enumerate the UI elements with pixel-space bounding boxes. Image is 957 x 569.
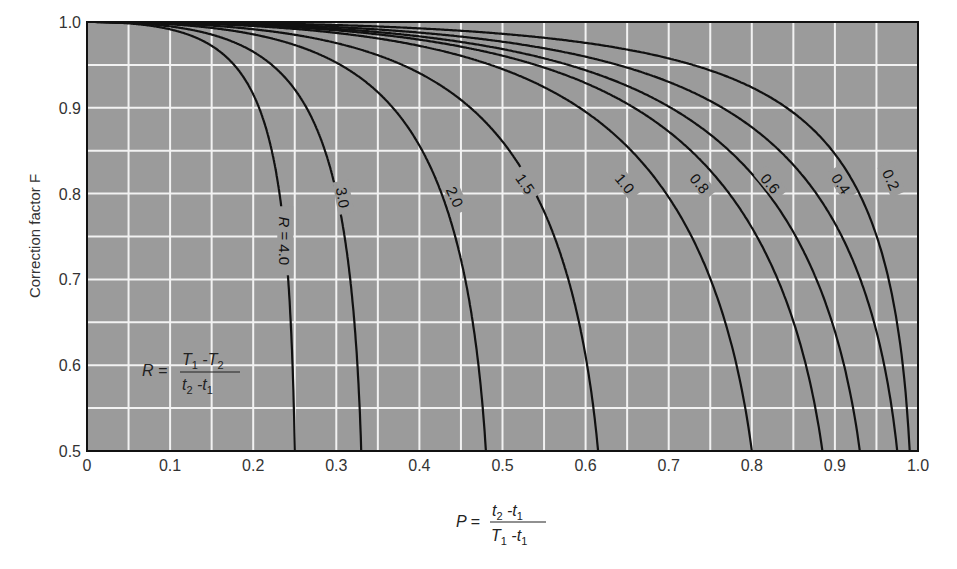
- curve-label: R = 4.0: [276, 206, 293, 275]
- x-tick-label: 0.3: [325, 457, 347, 474]
- x-tick-label: 0.1: [159, 457, 181, 474]
- p-formula-denominator: T1 -t1: [491, 527, 527, 547]
- y-tick-label: 0.7: [59, 271, 81, 288]
- correction-factor-chart: R = 4.03.02.01.51.00.80.60.40.2 00.10.20…: [0, 0, 957, 569]
- curve-label-text: R = 4.0: [276, 216, 293, 265]
- p-formula: P = t2 -t1 T1 -t1: [456, 502, 546, 547]
- x-tick-label: 0.9: [824, 457, 846, 474]
- y-tick-label: 0.5: [59, 443, 81, 460]
- y-axis-ticks: 0.50.60.70.80.91.0: [59, 14, 81, 460]
- x-tick-label: 0.6: [574, 457, 596, 474]
- x-tick-label: 0: [83, 457, 92, 474]
- p-formula-prefix: P =: [456, 513, 480, 530]
- curve-label-text: 3.0: [333, 186, 353, 209]
- p-formula-numerator: t2 -t1: [492, 502, 523, 522]
- x-axis-ticks: 00.10.20.30.40.50.60.70.80.91.0: [83, 457, 930, 474]
- x-tick-label: 0.7: [658, 457, 680, 474]
- x-tick-label: 0.5: [491, 457, 513, 474]
- x-tick-label: 1.0: [907, 457, 929, 474]
- y-tick-label: 0.9: [59, 100, 81, 117]
- y-axis-title: Correction factor F: [26, 174, 43, 298]
- x-tick-label: 0.4: [408, 457, 430, 474]
- y-tick-label: 1.0: [59, 14, 81, 31]
- r-formula-prefix: R =: [142, 362, 167, 379]
- y-tick-label: 0.6: [59, 357, 81, 374]
- x-tick-label: 0.8: [741, 457, 763, 474]
- x-tick-label: 0.2: [242, 457, 264, 474]
- y-tick-label: 0.8: [59, 186, 81, 203]
